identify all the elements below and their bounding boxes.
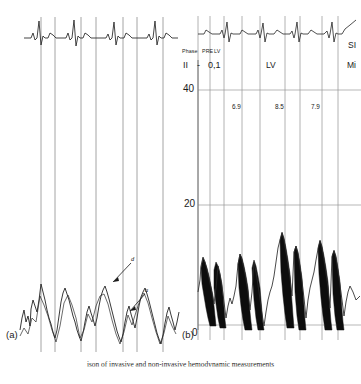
value-label-3: 7.9 xyxy=(311,104,320,110)
figure-caption: ison of invasive and non-invasive hemody… xyxy=(0,360,361,372)
panel-a: d a (a) xyxy=(0,0,180,356)
edge-label-si: SI xyxy=(348,41,356,50)
annotation-arrows-a xyxy=(113,263,145,311)
phase-value: 0,1 xyxy=(208,61,221,70)
annotation-label-a: a xyxy=(145,287,148,294)
lead-label-ii: II xyxy=(183,61,188,70)
y-tick-40: 40 xyxy=(183,84,194,94)
phase-mid-lv: LV xyxy=(266,61,276,70)
value-label-2: 8.5 xyxy=(275,104,284,110)
value-label-1: 6.9 xyxy=(232,104,241,110)
annotation-label-d: d xyxy=(131,256,134,263)
phase-dash: - xyxy=(197,61,200,70)
ecg-trace-b xyxy=(198,20,356,42)
phase-header-lv: LV xyxy=(214,49,220,54)
pressure-overlay-a xyxy=(20,293,176,344)
velocity-envelope-b xyxy=(201,232,344,330)
panel-b: 40 20 0 Phase PRE LV II - 0,1 LV SI Mi 6… xyxy=(180,0,361,356)
figure-container: d a (a) xyxy=(0,0,361,384)
panel-a-tag: (a) xyxy=(6,330,18,340)
phase-header-title: Phase xyxy=(182,49,198,54)
ecg-trace-a xyxy=(24,20,178,46)
edge-label-mi: Mi xyxy=(347,61,356,70)
panel-a-plot xyxy=(0,0,180,356)
y-tick-20: 20 xyxy=(184,199,195,209)
pressure-trace-a xyxy=(20,284,179,344)
panel-b-tag: (b) xyxy=(182,330,194,340)
timing-lines-a xyxy=(41,17,163,352)
phase-header-pre: PRE xyxy=(202,49,213,54)
